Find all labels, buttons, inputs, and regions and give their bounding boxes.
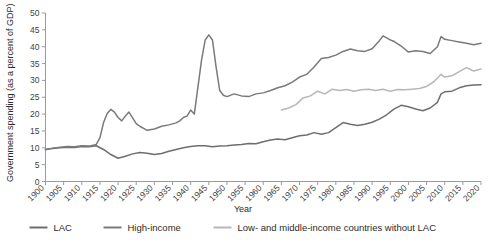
x-tick-label: 1900 <box>25 183 46 204</box>
legend-label-1[interactable]: High-income <box>128 222 181 233</box>
x-tick-label: 1950 <box>207 183 228 204</box>
x-tick-label: 1940 <box>171 183 192 204</box>
y-tick-label: 40 <box>30 42 40 52</box>
x-tick-label: 2015 <box>443 183 464 204</box>
x-axis-ticks: 1900190519101915192019251930193519401945… <box>25 182 481 204</box>
x-tick-label: 2000 <box>388 183 409 204</box>
x-axis-title-label: Year <box>234 204 252 214</box>
legend-label-2[interactable]: Low- and middle-income countries without… <box>238 222 437 233</box>
x-tick-label: 1970 <box>280 183 301 204</box>
x-tick-label: 1915 <box>80 183 101 204</box>
series-line-1 <box>46 35 482 150</box>
line-chart: Government spending (as a percent of GDP… <box>0 0 493 245</box>
x-tick-label: 1945 <box>189 183 210 204</box>
x-tick-label: 1965 <box>261 183 282 204</box>
chart-figure: Government spending (as a percent of GDP… <box>0 0 493 245</box>
y-axis-ticks: 05101520253035404550 <box>30 8 45 187</box>
x-tick-label: 1910 <box>62 183 83 204</box>
y-tick-label: 20 <box>30 109 40 119</box>
x-tick-label: 2010 <box>425 183 446 204</box>
y-tick-label: 5 <box>35 160 40 170</box>
chart-legend: LACHigh-incomeLow- and middle-income cou… <box>30 222 437 233</box>
legend-label-0[interactable]: LAC <box>54 222 73 233</box>
x-tick-label: 1930 <box>134 183 155 204</box>
x-tick-label: 1935 <box>152 183 173 204</box>
x-tick-label: 1905 <box>44 183 65 204</box>
y-tick-label: 45 <box>30 25 40 35</box>
y-axis-title-label: Government spending (as a percent of GDP… <box>5 3 15 182</box>
x-tick-label: 1955 <box>225 183 246 204</box>
series-line-0 <box>46 85 482 158</box>
series-lines <box>46 35 482 158</box>
x-tick-label: 1990 <box>352 183 373 204</box>
x-tick-label: 1980 <box>316 183 337 204</box>
y-tick-label: 25 <box>30 92 40 102</box>
x-tick-label: 1960 <box>243 183 264 204</box>
x-tick-label: 2005 <box>407 183 428 204</box>
series-line-2 <box>281 68 481 110</box>
y-tick-label: 30 <box>30 75 40 85</box>
x-tick-label: 1985 <box>334 183 355 204</box>
x-tick-label: 1995 <box>370 183 391 204</box>
y-axis-title: Government spending (as a percent of GDP… <box>5 3 15 182</box>
x-tick-label: 2020 <box>461 183 482 204</box>
x-tick-label: 1975 <box>298 183 319 204</box>
y-tick-label: 10 <box>30 143 40 153</box>
y-tick-label: 15 <box>30 126 40 136</box>
y-tick-label: 35 <box>30 59 40 69</box>
x-tick-label: 1925 <box>116 183 137 204</box>
x-tick-label: 1920 <box>98 183 119 204</box>
y-tick-label: 50 <box>30 8 40 18</box>
